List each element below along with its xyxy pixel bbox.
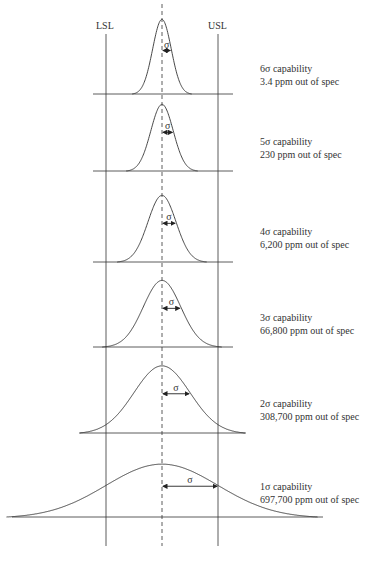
ppm-label: 66,800 ppm out of spec — [260, 324, 354, 337]
ppm-label: 230 ppm out of spec — [260, 148, 342, 161]
process-capability-diagram: LSL USL σσσσσσ 6σ capability3.4 ppm out … — [0, 0, 374, 565]
lsl-label: LSL — [96, 20, 114, 31]
ppm-label: 3.4 ppm out of spec — [260, 75, 339, 88]
ppm-label: 308,700 ppm out of spec — [260, 410, 359, 423]
sigma-label: σ — [173, 382, 179, 393]
capability-caption: 3σ capability66,800 ppm out of spec — [260, 311, 354, 337]
capability-caption: 2σ capability308,700 ppm out of spec — [260, 397, 359, 423]
sigma-label: σ — [165, 120, 171, 131]
capability-label: 2σ capability — [260, 397, 359, 410]
ppm-label: 6,200 ppm out of spec — [260, 238, 349, 251]
capability-caption: 5σ capability230 ppm out of spec — [260, 135, 342, 161]
distribution-curves: σσσσσσ — [7, 20, 324, 518]
capability-label: 3σ capability — [260, 311, 354, 324]
sigma-label: σ — [164, 39, 170, 50]
capability-label: 6σ capability — [260, 62, 339, 75]
usl-label: USL — [208, 20, 227, 31]
capability-caption: 4σ capability6,200 ppm out of spec — [260, 225, 349, 251]
sigma-label: σ — [187, 474, 193, 485]
capability-label: 1σ capability — [260, 480, 359, 493]
ppm-label: 697,700 ppm out of spec — [260, 493, 359, 506]
capability-label: 4σ capability — [260, 225, 349, 238]
capability-caption: 6σ capability3.4 ppm out of spec — [260, 62, 339, 88]
capability-caption: 1σ capability697,700 ppm out of spec — [260, 480, 359, 506]
sigma-label: σ — [166, 211, 172, 222]
sigma-label: σ — [169, 296, 175, 307]
capability-label: 5σ capability — [260, 135, 342, 148]
